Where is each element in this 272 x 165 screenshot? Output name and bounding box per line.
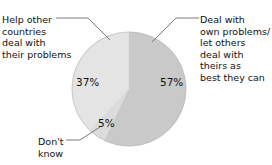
pie-chart-figure: U.S. should ... Help other countries dea… (0, 0, 272, 165)
callout-label-bottom: Don't know (38, 136, 98, 159)
leader-line-right (152, 18, 199, 42)
callout-label-right: Deal with own problems/ let others deal … (200, 14, 272, 84)
pie-value-label-right: 57% (160, 76, 183, 88)
callout-label-left: Help other countries deal with their pro… (2, 14, 74, 60)
pie-value-label-bottom: 5% (98, 117, 115, 129)
pie-value-label-left: 37% (76, 76, 99, 88)
